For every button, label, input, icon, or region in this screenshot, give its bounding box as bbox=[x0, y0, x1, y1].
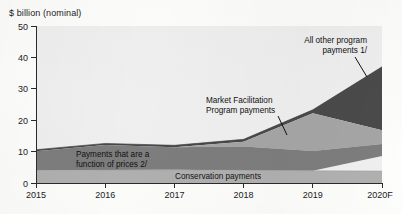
x-tick-label-2016: 2016 bbox=[95, 190, 115, 200]
x-tick-label-2019: 2019 bbox=[303, 190, 323, 200]
y-tick-label-10: 10 bbox=[18, 147, 28, 157]
annotation-market-facilitation-line1: Market Facilitation bbox=[206, 96, 273, 105]
annotation-prices-line2: function of prices 2/ bbox=[76, 160, 148, 169]
y-tick-label-40: 40 bbox=[18, 53, 28, 63]
y-tick-label-50: 50 bbox=[18, 22, 28, 32]
annotation-all-other-program-payments-line2: payments 1/ bbox=[322, 46, 367, 55]
y-tick-label-0: 0 bbox=[23, 179, 28, 189]
x-tick-label-2018: 2018 bbox=[234, 190, 254, 200]
y-tick-label-30: 30 bbox=[18, 84, 28, 94]
stacked-area-chart: 50 40 30 20 10 0 2015 2016 2017 2018 201… bbox=[0, 0, 402, 214]
x-tick-label-2020F: 2020F bbox=[367, 190, 393, 200]
annotation-all-other-program-payments-line1: All other program bbox=[304, 36, 367, 45]
x-tick-label-2017: 2017 bbox=[164, 190, 184, 200]
annotation-market-facilitation-line2: Program payments bbox=[206, 106, 275, 115]
x-tick-label-2015: 2015 bbox=[26, 190, 46, 200]
annotation-prices-line1: Payments that are a bbox=[76, 150, 150, 159]
chart-figure: $ billion (nominal) 50 40 30 20 10 0 bbox=[0, 0, 402, 214]
y-tick-label-20: 20 bbox=[18, 116, 28, 126]
annotation-conservation-payments: Conservation payments bbox=[175, 172, 261, 181]
